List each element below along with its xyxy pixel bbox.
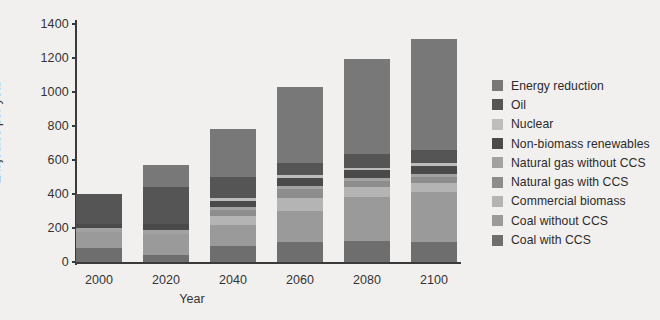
legend-item[interactable]: Commercial biomass [492, 192, 657, 211]
x-tick-label: 2100 [420, 273, 448, 287]
y-tick-label: 1000 [40, 85, 76, 99]
legend-swatch-icon [492, 235, 503, 246]
bar-segment[interactable] [411, 192, 457, 241]
bar-segment[interactable] [344, 59, 390, 154]
bar-segment[interactable] [210, 216, 256, 225]
legend-swatch-icon [492, 215, 503, 226]
bar-segment[interactable] [344, 187, 390, 196]
legend-item[interactable]: Non-biomass renewables [492, 134, 657, 153]
x-axis-line [75, 262, 461, 264]
x-tick-label: 2040 [219, 273, 247, 287]
legend-item[interactable]: Energy reduction [492, 76, 657, 95]
bar-segment[interactable] [143, 234, 189, 255]
y-tick-label: 1400 [40, 17, 76, 31]
bar-segment[interactable] [411, 242, 457, 262]
bar-segment[interactable] [277, 211, 323, 242]
bar-segment[interactable] [411, 39, 457, 150]
legend-swatch-icon [492, 196, 503, 207]
legend-label: Commercial biomass [511, 194, 626, 208]
bar-segment[interactable] [344, 241, 390, 262]
legend-label: Non-biomass renewables [511, 137, 650, 151]
legend-swatch-icon [492, 138, 503, 149]
legend-item[interactable]: Nuclear [492, 115, 657, 134]
legend-swatch-icon [492, 177, 503, 188]
y-tick-label: 1200 [40, 51, 76, 65]
legend-item[interactable]: Natural gas with CCS [492, 172, 657, 191]
bar-segment[interactable] [143, 165, 189, 187]
y-tick-mark [72, 23, 76, 25]
bar-group-2100[interactable]: 2100 [411, 39, 457, 262]
legend-item[interactable]: Natural gas without CCS [492, 153, 657, 172]
bar-segment[interactable] [277, 163, 323, 176]
bar-segment[interactable] [277, 178, 323, 186]
legend-swatch-icon [492, 80, 503, 91]
bar-segment[interactable] [76, 232, 122, 248]
legend-item[interactable]: Oil [492, 95, 657, 114]
bar-segment[interactable] [210, 129, 256, 177]
bar-segment[interactable] [277, 242, 323, 262]
legend-swatch-icon [492, 119, 503, 130]
bar-segment[interactable] [143, 187, 189, 224]
x-tick-label: 2060 [286, 273, 314, 287]
bar-group-2080[interactable]: 2080 [344, 59, 390, 262]
plot-area: 0200400600800100012001400200020202040206… [76, 24, 460, 262]
bar-segment[interactable] [277, 189, 323, 198]
legend-label: Nuclear [511, 117, 553, 131]
bar-segment[interactable] [76, 194, 122, 224]
bar-segment[interactable] [143, 255, 189, 262]
y-tick-mark [72, 57, 76, 59]
y-tick-mark [72, 125, 76, 127]
bar-segment[interactable] [277, 87, 323, 163]
legend-label: Coal with CCS [511, 233, 591, 247]
legend-label: Oil [511, 98, 526, 112]
bar-segment[interactable] [210, 177, 256, 198]
x-tick-label: 2020 [152, 273, 180, 287]
bar-group-2020[interactable]: 2020 [143, 165, 189, 262]
bar-group-2000[interactable]: 2000 [76, 194, 122, 262]
legend-item[interactable]: Coal with CCS [492, 230, 657, 249]
bar-segment[interactable] [344, 154, 390, 168]
bar-segment[interactable] [277, 198, 323, 211]
y-axis-title: Exajoules per year [0, 80, 3, 184]
legend-label: Natural gas without CCS [511, 156, 646, 170]
x-axis-title: Year [179, 292, 204, 306]
legend-swatch-icon [492, 157, 503, 168]
chart-legend: Energy reductionOilNuclearNon-biomass re… [492, 76, 657, 250]
legend-item[interactable]: Coal without CCS [492, 211, 657, 230]
legend-label: Natural gas with CCS [511, 175, 629, 189]
bar-segment[interactable] [76, 248, 122, 262]
legend-label: Coal without CCS [511, 214, 608, 228]
bar-segment[interactable] [411, 150, 457, 164]
bar-segment[interactable] [210, 246, 256, 262]
stacked-bar-chart: Exajoules per year Year 0200400600800100… [0, 0, 660, 320]
legend-swatch-icon [492, 99, 503, 110]
bar-segment[interactable] [344, 197, 390, 241]
y-tick-mark [72, 91, 76, 93]
bar-group-2060[interactable]: 2060 [277, 87, 323, 262]
legend-label: Energy reduction [511, 79, 604, 93]
x-tick-label: 2080 [353, 273, 381, 287]
x-tick-label: 2000 [85, 273, 113, 287]
bar-segment[interactable] [411, 183, 457, 192]
y-tick-mark [72, 159, 76, 161]
bar-segment[interactable] [210, 225, 256, 245]
bar-segment[interactable] [344, 170, 390, 178]
bar-segment[interactable] [411, 166, 457, 174]
bar-group-2040[interactable]: 2040 [210, 129, 256, 262]
